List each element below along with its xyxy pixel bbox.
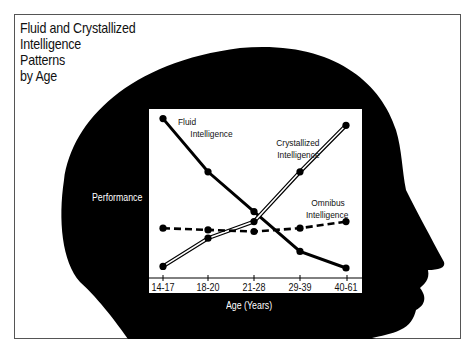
data-point-marker — [296, 225, 303, 232]
data-point-marker — [159, 115, 166, 122]
omnibus-intelligence-label: Omnibus Intelligence — [306, 197, 348, 221]
x-tick-label: 29-39 — [288, 282, 311, 293]
figure-title: Fluid and Crystallized Intelligence Patt… — [20, 20, 135, 84]
fluid-label-line-2: Intelligence — [178, 128, 233, 140]
title-line-1: Fluid and Crystallized — [20, 20, 135, 36]
title-line-3: Patterns — [20, 52, 135, 68]
omnibus-label-line-1: Omnibus — [306, 197, 348, 209]
data-point-marker — [204, 168, 211, 175]
data-point-marker — [342, 122, 349, 129]
data-point-marker — [159, 225, 166, 232]
x-tick-label: 40-61 — [334, 282, 357, 293]
x-axis-label: Age (Years) — [226, 300, 272, 311]
crystallized-label-line-1: Crystallized — [264, 137, 320, 149]
data-point-marker — [296, 168, 303, 175]
data-point-marker — [296, 248, 303, 255]
x-tick-label: 21-28 — [242, 282, 265, 293]
data-point-marker — [204, 235, 211, 242]
y-axis-label: Performance — [92, 192, 142, 203]
fluid-label-line-1: Fluid — [178, 116, 233, 128]
title-line-4: by Age — [20, 68, 135, 84]
x-tick-label: 18-20 — [196, 282, 219, 293]
data-point-marker — [250, 208, 257, 215]
title-line-2: Intelligence — [20, 36, 135, 52]
data-point-marker — [159, 263, 166, 270]
fluid-intelligence-label: Fluid Intelligence — [178, 116, 233, 140]
crystallized-label-line-2: Intelligence — [264, 149, 320, 161]
x-tick-label: 14-17 — [151, 282, 174, 293]
data-point-marker — [204, 226, 211, 233]
crystallized-intelligence-label: Crystallized Intelligence — [264, 137, 320, 161]
data-point-marker — [250, 218, 257, 225]
data-point-marker — [250, 228, 257, 235]
omnibus-label-line-2: Intelligence — [306, 209, 348, 221]
data-point-marker — [342, 264, 349, 271]
